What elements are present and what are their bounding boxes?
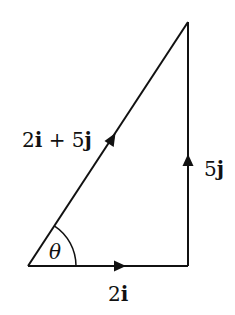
arrowhead-diagonal-icon xyxy=(105,133,116,147)
vertical-label: 5j xyxy=(204,157,224,181)
vector-triangle-diagram: 2i + 5j 5j 2i θ xyxy=(0,0,235,315)
angle-label-theta: θ xyxy=(49,240,61,264)
arrowhead-right-icon xyxy=(114,261,126,272)
horizontal-label: 2i xyxy=(108,282,129,306)
resultant-label: 2i + 5j xyxy=(22,128,92,152)
arrowhead-up-icon xyxy=(183,154,194,166)
